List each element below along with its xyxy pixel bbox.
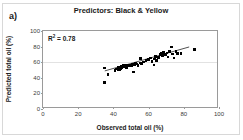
chart-title: Predictors: Black & Yellow xyxy=(46,6,196,15)
scatter-point xyxy=(137,64,140,67)
trendline xyxy=(43,31,217,107)
x-tick-mark xyxy=(78,107,79,109)
scatter-point xyxy=(103,81,106,84)
x-tick-mark xyxy=(219,107,220,109)
y-tick-label: 80 xyxy=(33,44,40,50)
y-tick-label: 60 xyxy=(33,59,40,65)
scatter-point xyxy=(171,53,174,56)
x-tick-label: 40 xyxy=(110,111,117,117)
plot-area: R2 = 0.78 020406080100 020406080100 xyxy=(42,30,218,108)
scatter-point xyxy=(157,56,160,59)
x-tick-label: 100 xyxy=(214,111,224,117)
x-tick-label: 60 xyxy=(145,111,152,117)
scatter-point xyxy=(176,52,179,55)
x-tick-mark xyxy=(113,107,114,109)
x-tick-label: 80 xyxy=(180,111,187,117)
x-tick-label: 20 xyxy=(75,111,82,117)
y-axis-title: Predicted total oil (%) xyxy=(5,36,12,102)
x-tick-mark xyxy=(149,107,150,109)
scatter-point xyxy=(132,71,135,74)
figure-panel: a) Predictors: Black & Yellow Predicted … xyxy=(0,0,243,140)
y-tick-label: 40 xyxy=(33,75,40,81)
panel-label: a) xyxy=(9,11,17,21)
scatter-point xyxy=(167,56,170,59)
y-tick-label: 100 xyxy=(30,28,40,34)
scatter-point xyxy=(170,46,173,49)
scatter-point xyxy=(149,57,152,60)
scatter-point xyxy=(173,57,176,60)
y-tick-label: 20 xyxy=(33,90,40,96)
scatter-point xyxy=(103,67,106,70)
scatter-point xyxy=(153,64,156,67)
x-tick-mark xyxy=(184,107,185,109)
scatter-point xyxy=(151,60,154,63)
y-tick-label: 0 xyxy=(37,106,40,112)
scatter-point xyxy=(125,66,128,69)
scatter-point xyxy=(155,59,158,62)
scatter-point xyxy=(107,73,110,76)
scatter-point xyxy=(193,48,196,51)
y-tick-mark xyxy=(41,109,43,110)
scatter-point xyxy=(180,52,183,55)
scatter-point xyxy=(139,57,142,60)
x-tick-mark xyxy=(43,107,44,109)
x-tick-label: 0 xyxy=(41,111,44,117)
x-axis-title: Observed total oil (%) xyxy=(42,124,218,131)
